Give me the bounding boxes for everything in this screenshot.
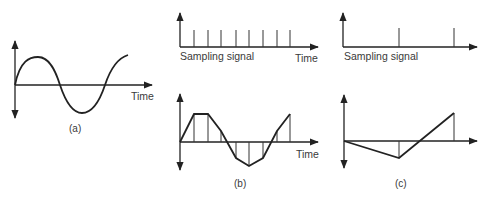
panel-b-sampling: Sampling signal Time [180,13,318,64]
panel-a: Time (a) [15,41,154,134]
sample-stems-b [194,114,290,166]
panel-c-reconstruction: (c) [344,95,477,189]
sampling-diagram: Time (a) Sampling signal Time [0,0,484,199]
caption-c: (c) [395,178,407,189]
sine-wave [15,55,128,113]
panel-c-sampling: Sampling signal [343,13,477,62]
x-axis-label-a: Time [131,90,154,102]
caption-b: (b) [234,178,246,189]
x-axis-label-b-bottom: Time [296,148,319,160]
caption-a: (a) [69,123,81,134]
x-axis-label-b-top: Time [295,52,318,64]
sample-pulses-b [194,30,290,47]
reconstructed-wave-b [180,114,290,166]
sampling-label-b: Sampling signal [180,50,254,62]
sampling-label-c: Sampling signal [344,50,418,62]
sample-pulses-c [399,28,454,47]
panel-b-reconstruction: Time (b) [180,94,319,189]
